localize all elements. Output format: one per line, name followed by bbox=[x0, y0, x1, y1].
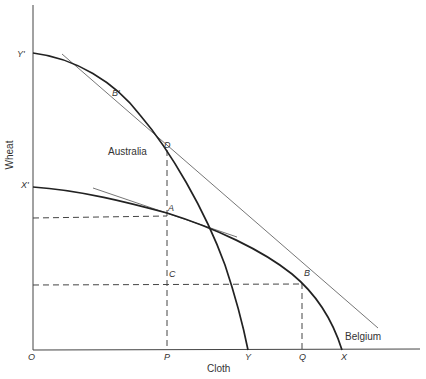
label-X: X bbox=[341, 353, 347, 362]
label-X-prime: X' bbox=[21, 181, 29, 190]
dashed-horizontal-A bbox=[33, 216, 167, 218]
x-axis-title: Cloth bbox=[207, 364, 230, 374]
tangent-line-BB bbox=[62, 54, 378, 328]
label-A: A bbox=[168, 204, 174, 213]
belgium-label: Belgium bbox=[345, 332, 381, 342]
label-Q: Q bbox=[299, 353, 306, 362]
australia-curve bbox=[33, 53, 248, 350]
label-B-prime: B' bbox=[112, 89, 120, 98]
label-Y-prime: Y' bbox=[17, 50, 25, 59]
australia-label: Australia bbox=[108, 147, 147, 157]
label-Y: Y bbox=[245, 353, 251, 362]
x-axis bbox=[33, 349, 420, 350]
origin-label: O bbox=[28, 353, 35, 362]
label-B: B bbox=[304, 269, 310, 278]
production-possibility-diagram bbox=[0, 0, 426, 379]
label-P: P bbox=[164, 353, 170, 362]
dashed-horizontal-B bbox=[33, 284, 302, 285]
label-D: D bbox=[164, 141, 171, 150]
label-C: C bbox=[169, 270, 176, 279]
belgium-curve bbox=[33, 187, 342, 350]
y-axis-title: Wheat bbox=[5, 141, 15, 170]
